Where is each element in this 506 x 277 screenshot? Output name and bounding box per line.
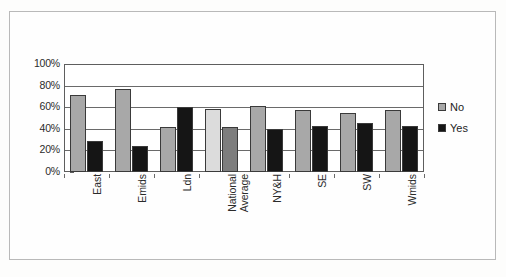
bar-group	[334, 64, 379, 172]
category-label-line1: Emids	[136, 174, 148, 203]
scanned-page: 100%80%60%40%20%0% EastEmidsLdnNationalA…	[0, 0, 506, 277]
x-axis-category-label: East	[91, 174, 103, 264]
y-axis-tick-label: 100%	[16, 58, 60, 68]
category-label-line1: NY&H	[271, 174, 283, 203]
legend-item-yes: Yes	[438, 119, 500, 137]
bar-yes	[132, 146, 148, 172]
x-axis-category-label: SW	[361, 174, 373, 264]
legend-label: No	[450, 102, 464, 113]
x-axis-tick-mark	[154, 174, 155, 178]
category-label-line1: SW	[361, 174, 373, 191]
bar-yes	[87, 141, 103, 172]
x-axis-tick-mark	[244, 174, 245, 178]
x-axis-tick-mark	[379, 174, 380, 178]
x-axis-category-label: Wmids	[406, 174, 418, 264]
bar-group	[109, 64, 154, 172]
x-axis-category-label: NationalAverage	[226, 174, 250, 264]
x-axis-labels: EastEmidsLdnNationalAverageNY&HSESWWmids	[64, 174, 424, 274]
bar-no	[295, 110, 311, 172]
y-axis-tick-label: 0%	[16, 166, 60, 176]
x-axis-tick-mark	[334, 174, 335, 178]
x-axis-tick-mark	[199, 174, 200, 178]
chart-legend: NoYes	[438, 98, 500, 140]
bar-no	[385, 110, 401, 172]
bar-no	[160, 127, 176, 172]
x-axis-tick-mark	[109, 174, 110, 178]
legend-swatch-icon	[438, 103, 446, 111]
y-axis: 100%80%60%40%20%0%	[10, 0, 60, 277]
category-label-line2: Average	[238, 174, 250, 264]
bar-group	[154, 64, 199, 172]
bar-yes	[177, 107, 193, 172]
category-label-line1: East	[91, 174, 103, 195]
bar-group	[199, 64, 244, 172]
legend-label: Yes	[450, 123, 468, 134]
x-axis-category-label: NY&H	[271, 174, 283, 264]
x-axis-tick-mark	[289, 174, 290, 178]
x-axis-category-label: Emids	[136, 174, 148, 264]
bar-yes	[357, 123, 373, 172]
y-axis-tick-label: 40%	[16, 123, 60, 133]
y-axis-tick-label: 60%	[16, 101, 60, 111]
x-axis-category-label: SE	[316, 174, 328, 264]
bar-no	[250, 106, 266, 172]
bar-no	[340, 113, 356, 172]
y-axis-tick-label: 80%	[16, 80, 60, 90]
bar-group	[289, 64, 334, 172]
x-axis-category-label: Ldn	[181, 174, 193, 264]
x-axis-tick-mark	[64, 174, 65, 178]
bar-chart: 100%80%60%40%20%0% EastEmidsLdnNationalA…	[0, 0, 506, 277]
bar-yes	[222, 127, 238, 172]
legend-swatch-icon	[438, 124, 446, 132]
x-axis-tick-mark	[424, 174, 425, 178]
bar-no	[70, 95, 86, 172]
bar-group	[244, 64, 289, 172]
bar-group	[379, 64, 424, 172]
category-label-line1: National	[226, 174, 238, 212]
bar-yes	[402, 126, 418, 172]
category-label-line1: Wmids	[406, 174, 418, 206]
legend-item-no: No	[438, 98, 500, 116]
bar-no	[115, 89, 131, 172]
category-label-line1: Ldn	[181, 174, 193, 191]
bar-yes	[267, 129, 283, 172]
bar-no	[205, 109, 221, 172]
category-label-line1: SE	[316, 174, 328, 188]
y-axis-tick-mark	[70, 172, 74, 173]
y-axis-tick-label: 20%	[16, 144, 60, 154]
bar-group	[64, 64, 109, 172]
bar-series-container	[64, 64, 424, 172]
bar-yes	[312, 126, 328, 172]
